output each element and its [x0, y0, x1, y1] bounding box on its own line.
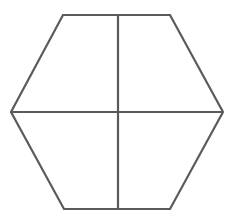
hexagon-diagram: [0, 0, 245, 220]
diagram-canvas: [0, 0, 245, 220]
